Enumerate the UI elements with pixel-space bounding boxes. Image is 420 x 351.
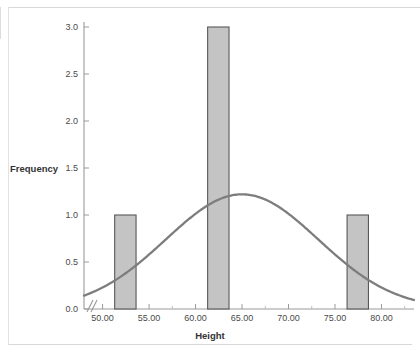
histogram-plot <box>0 0 420 351</box>
x-tick-label: 75.00 <box>310 313 360 323</box>
axis-break-icon <box>87 300 97 312</box>
x-tick-label: 70.00 <box>264 313 314 323</box>
histogram-bar <box>347 215 368 309</box>
y-tick-label: 1.0 <box>48 210 78 220</box>
y-tick-label: 0.0 <box>48 304 78 314</box>
y-tick-marks <box>84 27 89 309</box>
x-tick-label: 60.00 <box>171 313 221 323</box>
y-tick-label: 2.0 <box>48 116 78 126</box>
y-axis-title: Frequency <box>10 163 58 174</box>
x-tick-label: 80.00 <box>356 313 406 323</box>
histogram-bar <box>115 215 136 309</box>
x-tick-label: 55.00 <box>124 313 174 323</box>
x-tick-label: 65.00 <box>217 313 267 323</box>
histogram-bars <box>115 27 369 309</box>
x-axis-title: Height <box>0 330 420 341</box>
y-tick-label: 2.5 <box>48 69 78 79</box>
x-tick-label: 50.00 <box>78 313 128 323</box>
x-tick-marks <box>103 304 382 309</box>
chart-frame: 0.00.51.01.52.02.53.0 50.0055.0060.0065.… <box>0 0 420 351</box>
histogram-bar <box>208 27 229 309</box>
y-tick-label: 0.5 <box>48 257 78 267</box>
y-tick-label: 3.0 <box>48 22 78 32</box>
